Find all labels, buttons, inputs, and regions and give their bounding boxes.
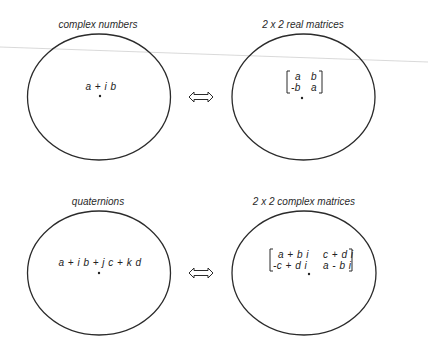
double-arrow-icon — [189, 92, 213, 102]
matrix-cell: -c + d i — [273, 261, 307, 271]
matrix-cell: a - b i — [323, 261, 352, 271]
real-matrices-label: 2 x 2 real matrices — [262, 20, 344, 30]
diagram-canvas: complex numbers 2 x 2 real matrices quat… — [0, 0, 428, 355]
scan-line — [0, 47, 428, 62]
quaternions-label: quaternions — [72, 197, 124, 207]
matrix-cell: a — [295, 72, 301, 82]
point-dot — [98, 272, 100, 274]
matrix-cell: a + b i — [278, 250, 309, 260]
point-dot — [99, 95, 101, 97]
complex-numbers-set — [28, 34, 171, 160]
complex-number-expression: a + i b — [85, 82, 116, 92]
matrix-cell: -b — [291, 83, 301, 93]
complex-numbers-label: complex numbers — [59, 20, 138, 30]
matrix-cell: b — [311, 72, 317, 82]
point-dot — [301, 97, 303, 99]
real-matrices-set — [232, 34, 375, 160]
complex-matrices-set — [232, 211, 376, 335]
matrix-cell: c + d i — [323, 250, 353, 260]
quaternion-expression: a + i b + j c + k d — [58, 258, 141, 268]
point-dot — [308, 273, 310, 275]
diagram-shapes — [0, 0, 428, 355]
complex-matrices-label: 2 x 2 complex matrices — [253, 197, 355, 207]
double-arrow-icon — [189, 268, 213, 278]
matrix-cell: a — [311, 83, 317, 93]
